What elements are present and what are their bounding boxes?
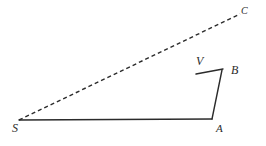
segment-sa [19, 119, 212, 120]
vertex-label-b: B [231, 64, 238, 76]
geometry-diagram: S A B V C [0, 0, 266, 146]
vertex-label-c: C [241, 6, 248, 16]
segment-ab [212, 70, 222, 119]
vertex-label-v: V [196, 55, 203, 67]
ray-svc-dashed [19, 14, 240, 120]
vertex-label-a: A [216, 123, 223, 134]
vertex-label-s: S [12, 122, 18, 134]
segment-vb [196, 69, 223, 74]
diagram-canvas [0, 0, 266, 146]
